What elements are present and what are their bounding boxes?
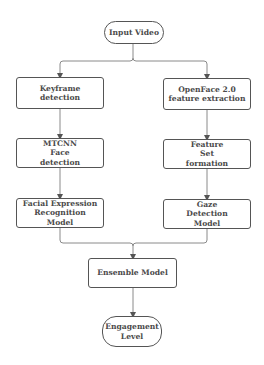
node-engagement-level: Engagement Level (102, 316, 162, 347)
node-input-video: Input Video (104, 21, 164, 44)
flow-connectors (0, 0, 264, 365)
node-keyframe-detection: Keyframe detection (16, 77, 104, 109)
node-facial-expression-model: Facial Expression Recognition Model (16, 198, 104, 228)
node-feature-set-formation: Feature Set formation (163, 139, 251, 169)
edge-gaze-ensemble (133, 229, 207, 246)
edge-input-openface (133, 58, 207, 77)
node-openface-extraction: OpenFace 2.0 feature extraction (163, 78, 251, 110)
node-mtcnn-face-detection: MTCNN Face detection (16, 138, 104, 168)
node-gaze-detection-model: Gaze Detection Model (163, 199, 251, 229)
node-ensemble-model: Ensemble Model (88, 258, 177, 288)
edge-input-split (60, 44, 133, 76)
edge-fer-ensemble (60, 228, 133, 257)
